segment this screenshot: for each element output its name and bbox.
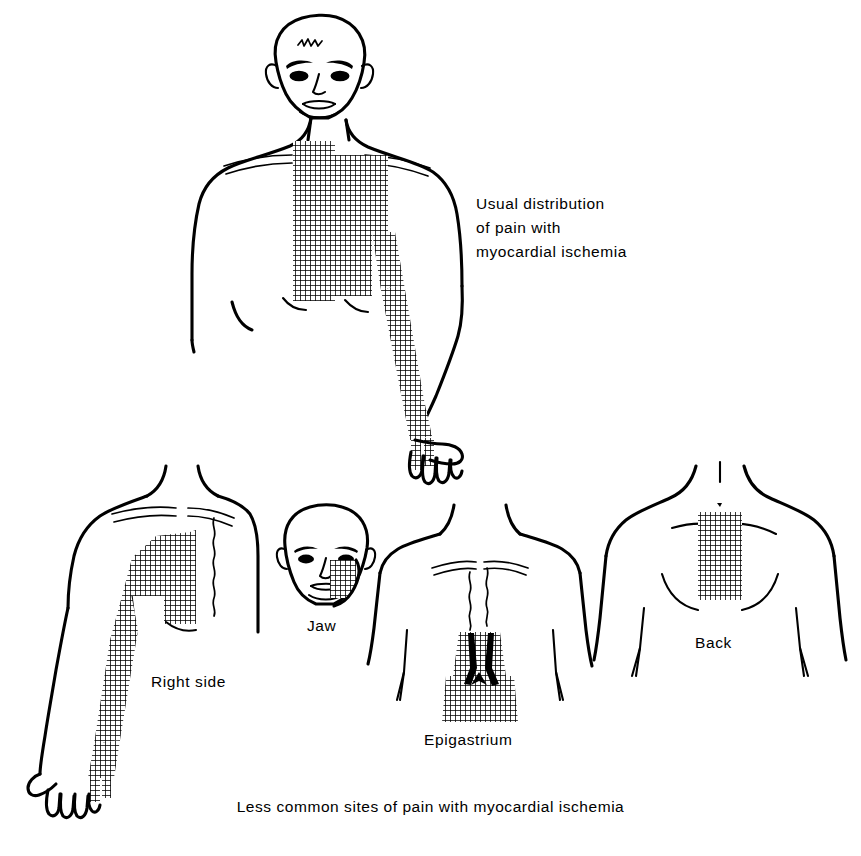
back-spine-dot: [717, 503, 722, 507]
hatch-forearm-usual: [381, 284, 424, 404]
neck: [308, 118, 349, 140]
ep-shoulder-right: [520, 534, 580, 573]
panel-jaw: [277, 505, 375, 606]
back-arm-left: [594, 556, 606, 660]
hatch-back-interscapular: [698, 512, 742, 600]
hatch-right-hand: [88, 740, 120, 778]
hatch-upper-arm-usual: [372, 232, 404, 290]
legend-line-2: of pain with: [476, 216, 627, 240]
hatch-right-forearm: [94, 630, 138, 744]
pectoral-fold-right: [345, 300, 368, 312]
ep-neck-right: [506, 505, 520, 534]
panel-epigastrium: [368, 505, 592, 722]
rs-neck-left: [147, 466, 166, 496]
ep-neck-left: [440, 505, 454, 534]
back-scapula-right-fold: [742, 574, 778, 610]
ep-shoulder-left: [380, 534, 440, 573]
back-shoulder-left: [606, 466, 696, 556]
back-arm-right: [834, 556, 846, 660]
panel-usual-distribution: [192, 15, 462, 483]
ep-arm-right: [580, 573, 592, 666]
legend-usual-distribution: Usual distribution of pain with myocardi…: [476, 192, 627, 264]
rs-neck-right: [198, 466, 218, 496]
rs-shoulder-right: [218, 496, 258, 632]
medical-illustration: [0, 0, 861, 856]
back-shoulder-right: [744, 466, 834, 556]
label-epigastrium: Epigastrium: [424, 731, 512, 749]
hatch-sternal-usual: [293, 141, 335, 301]
bottom-caption: Less common sites of pain with myocardia…: [0, 798, 861, 816]
hatch-hand-usual: [403, 400, 432, 440]
label-right-side: Right side: [151, 673, 226, 691]
panel-right-side: [28, 466, 258, 818]
head: [266, 15, 373, 118]
legend-line-1: Usual distribution: [476, 192, 627, 216]
rs-sternum-line: [213, 518, 215, 616]
label-jaw: Jaw: [307, 617, 336, 635]
label-back: Back: [695, 634, 732, 652]
rs-arm-outer: [40, 608, 68, 774]
ep-arm-left: [368, 573, 380, 664]
back-scapula-left-fold: [662, 574, 698, 610]
legend-line-3: myocardial ischemia: [476, 240, 627, 264]
figure-root: Usual distribution of pain with myocardi…: [0, 0, 861, 856]
